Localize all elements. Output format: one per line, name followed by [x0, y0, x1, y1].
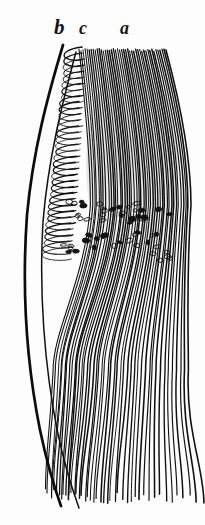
- nucleus: [166, 212, 172, 215]
- label-b: b: [54, 17, 65, 38]
- nucleus: [94, 236, 99, 240]
- nucleus: [138, 208, 145, 213]
- figure-plate: b c a Longitudinal section of muscle fib…: [0, 0, 205, 525]
- nucleus: [154, 232, 159, 237]
- nucleus: [119, 213, 123, 218]
- nucleus: [80, 203, 87, 208]
- nucleus: [127, 222, 132, 225]
- engraving-canvas: [0, 0, 205, 525]
- nucleus: [135, 230, 141, 234]
- nucleus: [146, 240, 150, 245]
- nucleus: [82, 238, 90, 244]
- label-a: a: [120, 19, 129, 37]
- nucleus: [92, 245, 97, 250]
- label-c: c: [79, 19, 87, 37]
